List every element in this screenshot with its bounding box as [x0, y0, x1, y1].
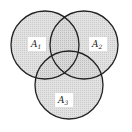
- venn-diagram: A1A2A3: [0, 0, 132, 132]
